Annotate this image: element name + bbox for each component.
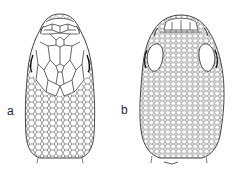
panel-label-b: b xyxy=(121,104,128,116)
head-a xyxy=(20,14,100,163)
head-b xyxy=(135,14,230,164)
figure-drawing xyxy=(0,0,237,174)
panel-label-a: a xyxy=(7,105,14,117)
figure: a b xyxy=(0,0,237,174)
